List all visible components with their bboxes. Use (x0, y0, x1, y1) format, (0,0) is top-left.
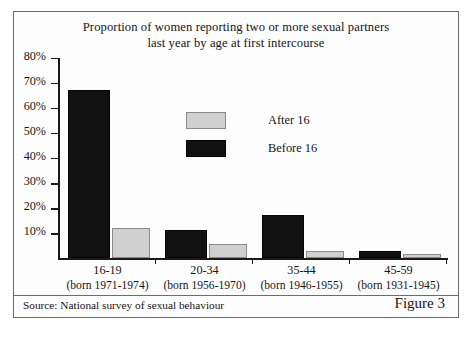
x-axis-category-born-45-59: (born 1931-1945) (350, 278, 447, 294)
x-axis-category-born-20-34: (born 1956-1970) (156, 278, 253, 294)
y-axis-tick-70: 70% (51, 83, 59, 84)
y-axis-tick-60: 60% (51, 108, 59, 109)
y-axis-tick-40: 40% (51, 158, 59, 159)
y-axis-tick-30: 30% (51, 183, 59, 184)
x-axis-category-20-34: 20-34 (born 1956-1970) (156, 262, 253, 294)
y-axis-tick-label-30: 30% (24, 174, 46, 189)
x-axis-category-born-16-19: (born 1971-1974) (59, 278, 156, 294)
chart-legend: After 16 Before 16 (186, 106, 366, 162)
y-axis-tick-50: 50% (51, 133, 59, 134)
x-axis-category-age-45-59: 45-59 (350, 262, 447, 278)
bar-before16-35-44 (262, 215, 304, 258)
footer-divider (14, 295, 458, 296)
y-axis-tick-label-80: 80% (24, 49, 46, 64)
legend-label-before-16: Before 16 (268, 141, 317, 156)
legend-entry-after-16: After 16 (186, 106, 366, 134)
legend-swatch-before-16 (186, 140, 226, 157)
source-note: Source: National survey of sexual behavi… (23, 299, 224, 311)
x-axis-category-age-16-19: 16-19 (59, 262, 156, 278)
y-axis-tick-label-20: 20% (24, 199, 46, 214)
x-axis-category-born-35-44: (born 1946-1955) (253, 278, 350, 294)
bar-before16-45-59 (359, 251, 401, 259)
y-axis-tick-80: 80% (51, 58, 59, 59)
legend-entry-before-16: Before 16 (186, 134, 366, 162)
y-axis-tick-10: 10% (51, 233, 59, 234)
bar-before16-16-19 (68, 90, 110, 258)
y-axis-tick-20: 20% (51, 208, 59, 209)
figure-frame: Proportion of women reporting two or mor… (13, 11, 459, 318)
bar-after16-20-34 (209, 244, 247, 258)
legend-label-after-16: After 16 (268, 113, 310, 128)
bar-after16-16-19 (112, 228, 150, 258)
chart-title-line-1: Proportion of women reporting two or mor… (14, 19, 458, 35)
x-axis-category-45-59: 45-59 (born 1931-1945) (350, 262, 447, 294)
x-axis-category-labels: 16-19 (born 1971-1974) 20-34 (born 1956-… (59, 262, 449, 298)
figure-number: Figure 3 (395, 295, 445, 312)
x-axis-category-age-35-44: 35-44 (253, 262, 350, 278)
bar-after16-45-59 (403, 254, 441, 258)
y-axis-tick-label-60: 60% (24, 99, 46, 114)
y-axis-tick-label-50: 50% (24, 124, 46, 139)
legend-swatch-after-16 (186, 112, 226, 129)
x-axis-category-age-20-34: 20-34 (156, 262, 253, 278)
bar-after16-35-44 (306, 251, 344, 259)
bar-before16-20-34 (165, 230, 207, 258)
y-axis-tick-label-10: 10% (24, 224, 46, 239)
x-axis-category-35-44: 35-44 (born 1946-1955) (253, 262, 350, 294)
y-axis-tick-label-40: 40% (24, 149, 46, 164)
x-axis-category-16-19: 16-19 (born 1971-1974) (59, 262, 156, 294)
y-axis-tick-label-70: 70% (24, 74, 46, 89)
